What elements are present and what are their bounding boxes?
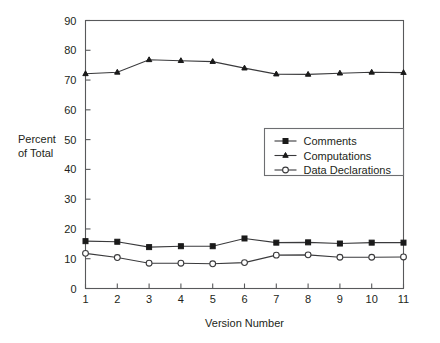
- marker-square: [283, 139, 288, 144]
- y-tick-label: 90: [64, 15, 76, 27]
- marker-circle: [242, 260, 248, 266]
- chart-legend: CommentsComputationsData Declarations: [265, 129, 404, 177]
- legend-item-label: Data Declarations: [304, 164, 392, 176]
- marker-square: [369, 240, 374, 245]
- x-tick-label: 5: [210, 293, 216, 305]
- marker-square: [242, 236, 247, 241]
- marker-square: [401, 240, 406, 245]
- x-tick-label: 2: [114, 293, 120, 305]
- y-tick-label: 70: [64, 74, 76, 86]
- x-tick-label: 11: [398, 293, 409, 305]
- y-tick-label: 30: [64, 193, 76, 205]
- x-tick-label: 4: [178, 293, 184, 305]
- marker-square: [178, 244, 183, 249]
- y-tick-label: 50: [64, 134, 76, 146]
- marker-circle: [283, 167, 289, 173]
- y-tick-label: 0: [70, 283, 76, 295]
- x-axis-title: Version Number: [205, 317, 284, 329]
- y-tick-label: 60: [64, 104, 76, 116]
- y-tick-label: 10: [64, 253, 76, 265]
- marker-circle: [146, 260, 152, 266]
- marker-circle: [210, 261, 216, 267]
- x-tick-label: 6: [241, 293, 247, 305]
- marker-circle: [273, 252, 279, 258]
- marker-square: [337, 241, 342, 246]
- x-tick-label: 3: [146, 293, 152, 305]
- y-axis-title-line2: of Total: [18, 147, 53, 159]
- marker-square: [147, 245, 152, 250]
- x-tick-label: 9: [337, 293, 343, 305]
- x-tick-label: 10: [366, 293, 378, 305]
- marker-square: [274, 240, 279, 245]
- legend-item-label: Comments: [304, 135, 358, 147]
- y-tick-label: 40: [64, 163, 76, 175]
- marker-square: [115, 239, 120, 244]
- chart-container: 0102030405060708090 1234567891011 Percen…: [0, 0, 440, 343]
- y-tick-label: 80: [64, 44, 76, 56]
- x-tick-label: 7: [273, 293, 279, 305]
- marker-square: [306, 240, 311, 245]
- x-tick-label: 1: [82, 293, 88, 305]
- marker-circle: [369, 254, 375, 260]
- marker-square: [210, 244, 215, 249]
- marker-circle: [401, 254, 407, 260]
- marker-square: [83, 239, 88, 244]
- marker-circle: [178, 260, 184, 266]
- marker-circle: [114, 255, 120, 261]
- marker-circle: [337, 254, 343, 260]
- y-tick-label: 20: [64, 223, 76, 235]
- marker-circle: [305, 252, 311, 258]
- legend-item-label: Computations: [304, 150, 372, 162]
- line-chart: 0102030405060708090 1234567891011 Percen…: [0, 0, 440, 343]
- marker-circle: [83, 250, 89, 256]
- x-tick-label: 8: [305, 293, 311, 305]
- y-axis-title-line1: Percent: [18, 133, 56, 145]
